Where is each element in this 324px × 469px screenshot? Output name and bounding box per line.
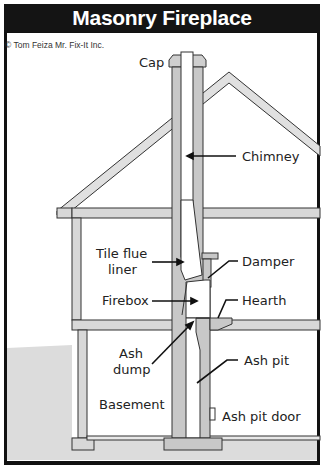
label-tile-flue-liner-1: Tile flue bbox=[95, 246, 147, 261]
label-cap: Cap bbox=[139, 55, 164, 70]
label-ash-dump-2: dump bbox=[113, 362, 150, 377]
label-hearth: Hearth bbox=[242, 293, 286, 308]
label-basement: Basement bbox=[99, 397, 165, 412]
label-tile-flue-liner-2: liner bbox=[108, 262, 137, 277]
copyright-credit: © Tom Feiza Mr. Fix-It Inc. bbox=[5, 40, 104, 50]
fireplace-diagram: Cap Chimney Tile flue liner Damper Fireb… bbox=[0, 0, 324, 469]
label-ash-pit: Ash pit bbox=[244, 353, 289, 368]
label-chimney: Chimney bbox=[242, 149, 300, 164]
label-firebox: Firebox bbox=[102, 293, 149, 308]
label-damper: Damper bbox=[242, 254, 295, 269]
label-ash-pit-door: Ash pit door bbox=[222, 409, 301, 424]
ground-left bbox=[7, 345, 72, 460]
chimney bbox=[164, 52, 232, 450]
label-ash-dump-1: Ash bbox=[119, 346, 143, 361]
